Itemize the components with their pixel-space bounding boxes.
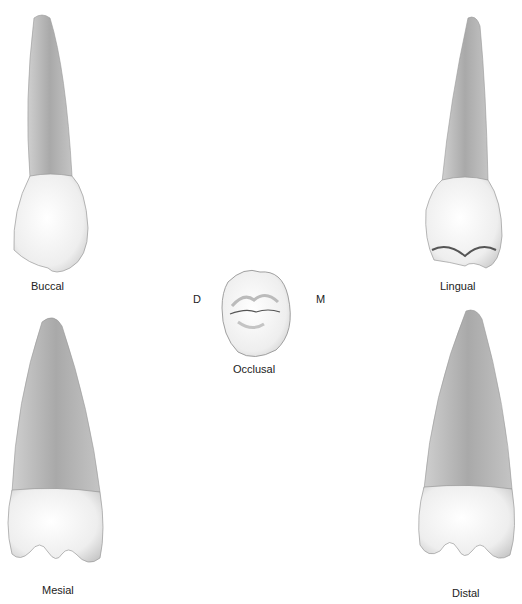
lingual-label: Lingual [440, 280, 475, 292]
tooth-occlusal-view [216, 262, 296, 362]
tooth-buccal-view [0, 0, 110, 280]
mesial-orientation-marker: M [316, 293, 325, 305]
tooth-lingual-view [410, 10, 510, 280]
occlusal-label: Occlusal [233, 363, 275, 375]
tooth-distal-view [410, 305, 520, 570]
mesial-label: Mesial [42, 584, 74, 596]
distal-orientation-marker: D [193, 293, 201, 305]
distal-label: Distal [452, 587, 480, 599]
tooth-mesial-view [0, 310, 110, 570]
buccal-label: Buccal [31, 280, 64, 292]
